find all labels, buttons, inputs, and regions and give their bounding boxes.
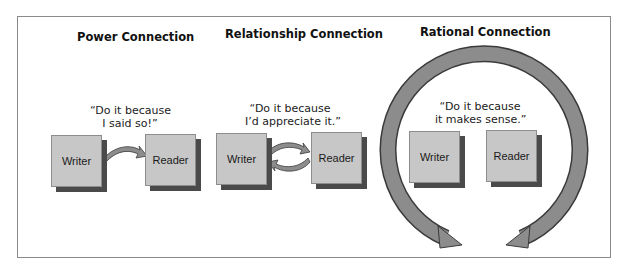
writer-box-power: Writer [51, 135, 102, 187]
arrow-two-way-icon [268, 143, 310, 171]
writer-box-rational: Writer [409, 131, 460, 183]
reader-box-rational: Reader [486, 130, 537, 182]
writer-box-relationship: Writer [216, 133, 267, 185]
arrow-one-way-icon [104, 146, 147, 162]
reader-box-relationship: Reader [311, 132, 362, 184]
reader-box-power: Reader [145, 134, 196, 186]
